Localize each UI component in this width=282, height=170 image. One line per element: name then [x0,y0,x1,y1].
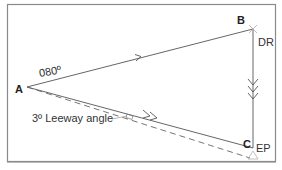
frame-border [8,5,276,162]
point-b-label: B [237,15,245,26]
point-a-label: A [15,84,23,95]
dr-label: DR [258,37,274,48]
arrow-double-icon-2 [150,112,157,120]
arrow-double-icon-1 [143,110,150,118]
leeway-label: 3º Leeway angle [32,113,113,124]
point-c-label: C [243,139,251,150]
arrow-single-icon [135,55,141,62]
ep-label: EP [256,143,271,154]
